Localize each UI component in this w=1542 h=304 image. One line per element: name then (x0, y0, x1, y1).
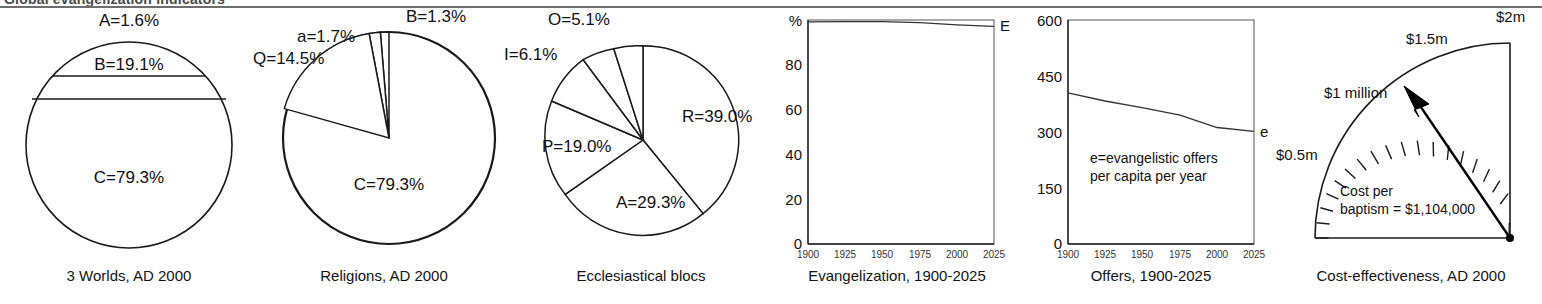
figure-sheet: Global evangelization indicators A=1.6% … (0, 0, 1542, 304)
chart4-ytick-60: 60 (785, 101, 802, 118)
chart5-ytick-450: 450 (1037, 68, 1062, 85)
gauge-cost-effectiveness: $0.5m $1 million $1.5m $2m Cost per bapt… (1280, 0, 1542, 280)
pie2-label-c: C=79.3% (354, 175, 424, 194)
caption-evangelization: Evangelization, 1900-2025 (772, 267, 1022, 284)
caption-offers: Offers, 1900-2025 (1022, 267, 1280, 284)
panel-ecclesiastical-blocs: O=5.1% I=6.1% R=39.0% P=19.0% A=29.3% Ec… (510, 0, 772, 304)
pie-chart-3-worlds: A=1.6% B=19.1% C=79.3% (0, 0, 258, 280)
pie2-label-a: a=1.7% (297, 27, 355, 46)
pie-chart-religions: B=1.3% a=1.7% Q=14.5% C=79.3% (258, 0, 510, 280)
caption-ecclesiastical-blocs: Ecclesiastical blocs (510, 267, 772, 284)
gauge-annotation-line2: baptism = $1,104,000 (1340, 201, 1475, 217)
chart4-plot-frame (808, 20, 994, 244)
gauge-label-2m: $2m (1496, 8, 1525, 25)
gauge-label-0-5m: $0.5m (1276, 146, 1318, 163)
caption-cost-effectiveness: Cost-effectiveness, AD 2000 (1280, 267, 1542, 284)
pie3-label-o: O=5.1% (548, 10, 610, 29)
chart4-ytick-40: 40 (785, 146, 802, 163)
panel-evangelization: % 80 60 40 20 0 1900 1925 1950 1975 2000… (772, 0, 1022, 304)
chart5-xtick-1900: 1900 (1057, 249, 1080, 260)
line-chart-evangelization: % 80 60 40 20 0 1900 1925 1950 1975 2000… (772, 0, 1022, 280)
chart4-xtick-1975: 1975 (909, 249, 932, 260)
panel-3-worlds: A=1.6% B=19.1% C=79.3% 3 Worlds, AD 2000 (0, 0, 258, 304)
panel-offers: 600 450 300 150 0 1900 1925 1950 1975 20… (1022, 0, 1280, 304)
gauge-annotation-line1: Cost per (1340, 183, 1393, 199)
chart5-ytick-150: 150 (1037, 180, 1062, 197)
pie3-label-i: I=6.1% (504, 45, 557, 64)
pie-chart-blocs: O=5.1% I=6.1% R=39.0% P=19.0% A=29.3% (510, 0, 772, 280)
chart5-ytick-600: 600 (1037, 12, 1062, 29)
caption-religions: Religions, AD 2000 (258, 267, 510, 284)
pie2-label-q: Q=14.5% (253, 49, 324, 68)
gauge-label-1m: $1 million (1324, 84, 1387, 101)
chart4-xtick-2000: 2000 (946, 249, 969, 260)
chart5-annotation-line2: per capita per year (1090, 168, 1207, 184)
pie3-label-a: A=29.3% (616, 193, 685, 212)
chart5-xtick-1950: 1950 (1131, 249, 1154, 260)
chart5-xtick-1975: 1975 (1169, 249, 1192, 260)
pie3-label-p: P=19.0% (542, 137, 611, 156)
panel-cost-effectiveness: $0.5m $1 million $1.5m $2m Cost per bapt… (1280, 0, 1542, 304)
chart5-xtick-2025: 2025 (1243, 249, 1266, 260)
pie1-label-b: B=19.1% (94, 55, 163, 74)
chart5-series-e-label: e (1260, 123, 1268, 140)
pie1-label-c: C=79.3% (94, 168, 164, 187)
chart5-xtick-1925: 1925 (1094, 249, 1117, 260)
chart5-plot-frame (1068, 20, 1254, 244)
chart5-annotation-line1: e=evangelistic offers (1090, 150, 1218, 166)
chart4-series-E-label: E (1000, 17, 1010, 34)
pie1-label-a: A=1.6% (99, 11, 159, 30)
chart4-xtick-2025: 2025 (983, 249, 1006, 260)
chart4-xtick-1900: 1900 (797, 249, 820, 260)
gauge-label-1-5m: $1.5m (1406, 30, 1448, 47)
chart4-ytick-80: 80 (785, 56, 802, 73)
pie3-label-r: R=39.0% (682, 107, 752, 126)
chart5-xtick-2000: 2000 (1206, 249, 1229, 260)
panel-religions: B=1.3% a=1.7% Q=14.5% C=79.3% Religions,… (258, 0, 510, 304)
chart4-xtick-1925: 1925 (834, 249, 857, 260)
chart4-xtick-1950: 1950 (871, 249, 894, 260)
chart4-ylabel: % (789, 12, 802, 29)
chart5-ytick-300: 300 (1037, 124, 1062, 141)
gauge-pivot (1506, 234, 1514, 242)
chart4-ytick-20: 20 (785, 191, 802, 208)
line-chart-offers: 600 450 300 150 0 1900 1925 1950 1975 20… (1022, 0, 1280, 280)
caption-3-worlds: 3 Worlds, AD 2000 (0, 267, 258, 284)
pie2-label-b: B=1.3% (406, 7, 466, 26)
